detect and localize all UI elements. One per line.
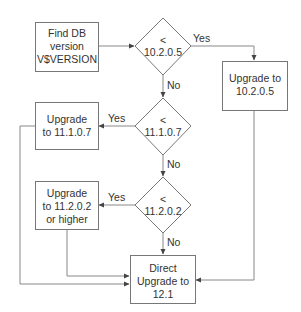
node-text-line: V$VERSION <box>37 53 97 65</box>
edges <box>20 46 254 284</box>
node-text-line: Upgrade to <box>229 72 281 84</box>
node-decision-10205: < 10.2.0.5 <box>135 18 191 75</box>
node-text-line: to 11.1.0.7 <box>43 126 92 138</box>
node-text-line: Upgrade to <box>137 275 189 287</box>
node-decision-11107: < 11.1.0.7 <box>135 98 191 155</box>
node-text-line: 11.1.0.7 <box>144 126 181 138</box>
node-text-line: 10.2.0.5 <box>144 46 182 58</box>
node-direct-upgrade-121: Direct Upgrade to 12.1 <box>131 256 196 304</box>
node-text-line: Find DB <box>48 27 86 39</box>
edge-upgrade-10205-to-direct <box>196 110 254 280</box>
node-text-line: < <box>160 114 166 126</box>
node-text-line: Direct <box>149 262 177 274</box>
node-find-db-version: Find DB version V$VERSION <box>36 23 99 72</box>
node-text-line: Upgrade <box>47 113 87 125</box>
no-label: No <box>167 158 181 170</box>
flowchart-svg: Find DB version V$VERSION < 10.2.0.5 Upg… <box>0 0 301 312</box>
flowchart-canvas: Find DB version V$VERSION < 10.2.0.5 Upg… <box>0 0 301 312</box>
edge-decision-10205-yes <box>191 46 254 60</box>
yes-label: Yes <box>108 191 125 203</box>
no-label: No <box>167 236 181 248</box>
node-text-line: 11.2.0.2 <box>144 205 181 217</box>
node-upgrade-11202: Upgrade to 11.2.0.2 or higher <box>36 182 99 230</box>
node-decision-11202: < 11.2.0.2 <box>135 177 191 233</box>
node-text-line: or higher <box>46 213 88 225</box>
node-text-line: Upgrade <box>47 187 87 199</box>
yes-label: Yes <box>108 112 125 124</box>
node-upgrade-11107: Upgrade to 11.1.0.7 <box>36 103 99 150</box>
node-text-line: 10.2.0.5 <box>236 85 274 97</box>
node-text-line: 12.1 <box>153 288 174 300</box>
node-text-line: < <box>160 193 166 205</box>
yes-label: Yes <box>193 32 210 44</box>
no-label: No <box>167 79 181 91</box>
node-text-line: to 11.2.0.2 <box>43 200 92 212</box>
node-text-line: version <box>50 40 84 52</box>
node-upgrade-10205: Upgrade to 10.2.0.5 <box>223 62 288 111</box>
node-text-line: < <box>160 34 166 46</box>
edge-upgrade-11202-to-direct <box>67 229 129 276</box>
